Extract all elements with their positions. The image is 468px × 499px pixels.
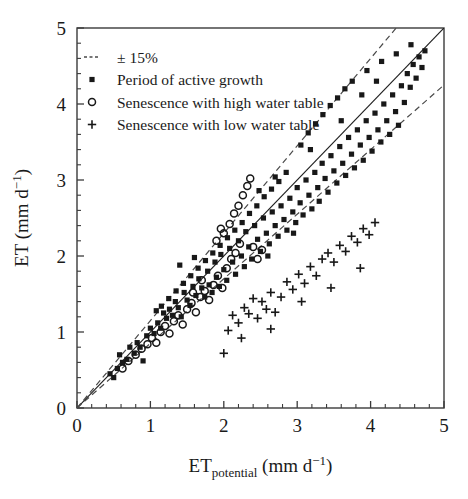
data-point	[334, 180, 339, 185]
x-tick-label: 1	[146, 415, 156, 436]
data-point	[320, 112, 325, 117]
data-point	[306, 193, 311, 198]
data-point	[318, 255, 326, 263]
data-point	[140, 358, 145, 363]
data-point	[340, 161, 345, 166]
x-tick-label: 3	[292, 415, 302, 436]
data-point	[258, 297, 266, 305]
data-point	[359, 224, 367, 232]
data-point	[290, 209, 295, 214]
data-point	[342, 86, 347, 91]
x-axis-title: ETpotential (mm d−1)	[189, 453, 333, 480]
data-point	[205, 269, 210, 274]
series-plus	[220, 218, 380, 357]
data-point	[306, 262, 314, 270]
data-point	[405, 71, 410, 76]
data-point	[227, 246, 232, 251]
data-point	[295, 185, 300, 190]
data-point	[408, 42, 413, 47]
y-tick-label: 4	[57, 94, 67, 115]
data-point	[135, 340, 140, 345]
data-point	[201, 287, 208, 294]
data-point	[341, 247, 349, 255]
data-point	[402, 100, 407, 105]
x-tick-label: 4	[366, 415, 376, 436]
data-point	[267, 241, 272, 246]
data-point	[256, 188, 261, 193]
data-point	[328, 153, 333, 158]
data-point	[349, 152, 354, 157]
data-point	[218, 252, 223, 257]
data-point	[276, 234, 281, 239]
data-point	[325, 190, 330, 195]
data-point	[384, 118, 389, 123]
data-point	[387, 132, 392, 137]
data-point	[355, 127, 360, 132]
data-point	[181, 281, 186, 286]
data-point	[379, 59, 384, 64]
data-point	[294, 270, 302, 278]
data-point	[212, 259, 217, 264]
data-point	[361, 158, 366, 163]
data-point	[347, 232, 355, 240]
data-point	[312, 272, 320, 280]
data-point	[154, 308, 159, 313]
data-point	[203, 258, 208, 263]
data-point	[255, 237, 260, 242]
data-point	[359, 92, 364, 97]
data-point	[353, 238, 361, 246]
data-point	[273, 223, 278, 228]
data-point	[303, 177, 308, 182]
data-point	[265, 253, 270, 258]
data-point	[375, 127, 380, 132]
data-point	[224, 278, 229, 283]
data-point	[276, 179, 281, 184]
chart-legend: ± 15%Period of active growthSenescence w…	[84, 49, 324, 134]
data-point	[346, 135, 351, 140]
data-point	[206, 297, 213, 304]
data-point	[422, 48, 427, 53]
data-point	[233, 272, 238, 277]
data-point	[287, 196, 292, 201]
y-tick-label: 0	[57, 398, 67, 419]
data-point	[261, 215, 266, 220]
data-point	[283, 278, 291, 286]
data-point	[408, 85, 413, 90]
data-point	[394, 51, 399, 56]
data-point	[267, 325, 275, 333]
data-point	[350, 79, 355, 84]
data-point	[166, 296, 171, 301]
data-point	[273, 174, 278, 179]
data-point	[374, 79, 379, 84]
data-point	[399, 83, 404, 88]
data-point	[243, 229, 248, 234]
legend-label: Senescence with low water table	[117, 116, 319, 133]
data-point	[411, 62, 416, 67]
data-point	[331, 168, 336, 173]
data-point	[247, 175, 254, 182]
data-point	[173, 288, 178, 293]
data-point	[278, 203, 283, 208]
data-point	[315, 185, 320, 190]
data-point	[253, 314, 261, 322]
data-point	[182, 290, 187, 295]
data-point	[254, 203, 259, 208]
data-point	[271, 308, 279, 316]
data-point	[312, 170, 317, 175]
data-point	[224, 326, 232, 334]
y-tick-label: 1	[57, 322, 67, 343]
data-point	[117, 352, 122, 357]
data-point	[242, 264, 247, 269]
data-point	[291, 231, 296, 236]
data-point	[254, 256, 261, 263]
data-point	[240, 303, 248, 311]
data-point	[192, 309, 199, 316]
data-point	[159, 304, 164, 309]
data-point	[365, 231, 373, 239]
legend-marker-open-circle	[89, 99, 96, 106]
data-point	[234, 319, 242, 327]
data-point	[161, 310, 166, 315]
data-point	[192, 255, 197, 260]
data-point	[213, 237, 220, 244]
data-point	[155, 320, 160, 325]
